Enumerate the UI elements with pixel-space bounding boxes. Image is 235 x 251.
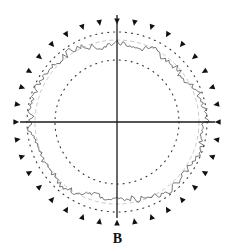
triangle-marker bbox=[163, 205, 171, 213]
triangle-marker bbox=[79, 213, 86, 220]
triangle-marker bbox=[96, 19, 103, 26]
triangle-marker bbox=[215, 119, 221, 125]
triangle-marker bbox=[26, 168, 34, 176]
triangle-marker bbox=[208, 153, 215, 160]
panel-label: B bbox=[0, 231, 235, 247]
triangle-marker bbox=[200, 68, 208, 76]
triangle-marker bbox=[213, 136, 220, 143]
triangle-marker bbox=[178, 195, 186, 203]
triangle-marker bbox=[148, 213, 155, 220]
triangle-marker bbox=[213, 101, 220, 108]
triangle-marker bbox=[36, 53, 44, 61]
triangle-marker bbox=[131, 19, 138, 26]
triangle-marker bbox=[178, 41, 186, 49]
triangle-marker bbox=[19, 84, 26, 91]
triangle-marker bbox=[48, 195, 56, 203]
triangle-marker bbox=[208, 84, 215, 91]
triangle-marker bbox=[131, 218, 138, 225]
polar-figure bbox=[0, 0, 235, 251]
triangle-marker bbox=[114, 220, 120, 226]
triangle-marker bbox=[163, 31, 171, 39]
triangle-marker bbox=[14, 136, 21, 143]
triangle-marker bbox=[79, 24, 86, 31]
triangle-marker bbox=[13, 119, 19, 125]
triangle-marker bbox=[148, 24, 155, 31]
triangle-marker bbox=[190, 183, 198, 191]
triangle-marker bbox=[63, 31, 71, 39]
triangle-marker bbox=[26, 68, 34, 76]
triangle-marker bbox=[48, 41, 56, 49]
triangle-marker bbox=[36, 183, 44, 191]
triangle-marker bbox=[19, 153, 26, 160]
triangle-marker bbox=[190, 53, 198, 61]
triangle-marker bbox=[96, 218, 103, 225]
triangle-marker bbox=[63, 205, 71, 213]
triangle-marker bbox=[14, 101, 21, 108]
triangle-marker bbox=[200, 168, 208, 176]
